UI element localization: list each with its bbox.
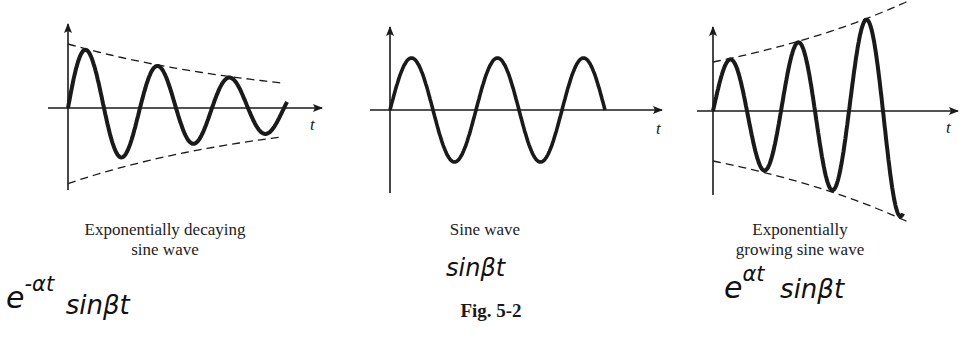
caption-growing: Exponentially growing sine wave <box>710 220 890 260</box>
panel-growing: t <box>697 0 958 223</box>
t-axis-label: t <box>656 119 662 138</box>
formula-sin: sinβt <box>780 274 844 304</box>
decaying-sine-curve <box>68 50 287 158</box>
t-axis-label: t <box>946 118 952 137</box>
formula-exponent: -αt <box>24 272 54 296</box>
growing-sine-curve <box>713 20 903 217</box>
caption-line: Exponentially <box>710 220 890 240</box>
lower-envelope <box>713 161 910 223</box>
formula-exponent: αt <box>742 262 764 286</box>
lower-envelope <box>68 137 282 184</box>
formula-sin: sinβt <box>446 254 505 282</box>
formula-base: e <box>6 280 24 315</box>
caption-sine: Sine wave <box>410 220 560 240</box>
caption-line: Sine wave <box>410 220 560 240</box>
caption-line: Exponentially decaying <box>40 220 290 240</box>
formula-base: e <box>724 270 742 305</box>
handwritten-formula-decaying: e-αt sinβt <box>6 278 130 315</box>
panel-decaying: t <box>48 24 322 190</box>
upper-envelope <box>713 0 910 62</box>
upper-envelope <box>68 44 282 83</box>
caption-line: sine wave <box>40 240 290 260</box>
handwritten-formula-sine: sinβt <box>446 254 505 282</box>
formula-sin: sinβt <box>66 290 130 320</box>
handwritten-formula-growing: eαt sinβt <box>724 268 844 305</box>
caption-line: growing sine wave <box>710 240 890 260</box>
figure-label: Fig. 5-2 <box>436 300 546 322</box>
t-axis-label: t <box>310 115 316 134</box>
caption-decaying: Exponentially decaying sine wave <box>40 220 290 260</box>
panel-sine: t <box>370 27 662 193</box>
